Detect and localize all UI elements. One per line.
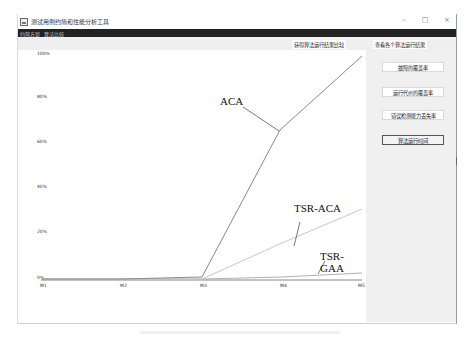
tab-compare-results[interactable]: 获得算法运行结果比较 <box>292 40 346 49</box>
fault-detection-loss-button[interactable]: 错误检测能力丢失率 <box>382 110 444 120</box>
resize-handle[interactable] <box>456 157 457 165</box>
chart-plot <box>18 50 366 322</box>
cost-coverage-button[interactable]: 运行代价的覆盖率 <box>382 87 444 97</box>
run-time-label: 算法运行时间 <box>398 137 428 144</box>
x-tick-m3: M3 <box>200 283 207 288</box>
tab-view-results[interactable]: 查看各个算法运行结果 <box>373 40 427 49</box>
tsr-aca-leader-line <box>294 222 300 246</box>
app-window: 测试用例约简和性能分析工具 – □ × 约简方案 算法比较 获得算法运行结果比较… <box>17 14 457 324</box>
aca-leader-line <box>243 107 279 131</box>
figure-caption <box>140 331 340 334</box>
menu-item-reduction[interactable]: 约简方案 <box>18 30 42 37</box>
side-panel: 故障的覆盖率 运行代价的覆盖率 错误检测能力丢失率 算法运行时间 <box>366 50 456 322</box>
cost-coverage-label: 运行代价的覆盖率 <box>393 89 433 96</box>
fault-coverage-button[interactable]: 故障的覆盖率 <box>382 62 444 72</box>
label-tsr-aca: TSR-ACA <box>294 202 341 214</box>
minimize-button[interactable]: – <box>398 16 410 24</box>
menu-bar: 约简方案 算法比较 <box>18 29 456 37</box>
x-tick-m1: M1 <box>40 283 47 288</box>
title-bar: 测试用例约简和性能分析工具 – □ × <box>18 14 456 29</box>
maximize-button[interactable]: □ <box>419 16 431 24</box>
x-tick-m2: M2 <box>120 283 127 288</box>
close-button[interactable]: × <box>441 16 453 24</box>
app-icon <box>20 18 28 26</box>
label-tsr-gaa: TSR-GAA <box>320 250 366 274</box>
run-time-button[interactable]: 算法运行时间 <box>382 135 444 145</box>
label-aca: ACA <box>220 95 243 107</box>
menu-item-compare[interactable]: 算法比较 <box>42 30 66 37</box>
fault-coverage-label: 故障的覆盖率 <box>398 64 428 71</box>
fault-detection-loss-label: 错误检测能力丢失率 <box>391 112 436 119</box>
x-tick-m5: M5 <box>358 283 365 288</box>
x-tick-m4: M4 <box>280 283 287 288</box>
window-title: 测试用例约简和性能分析工具 <box>31 17 109 26</box>
series-tsr-aca-line <box>42 209 362 279</box>
series-aca-line <box>42 56 362 279</box>
line-chart: 100% 80% 60% 40% 20% 0% ACA TSR-ACA TSR-… <box>18 50 366 322</box>
